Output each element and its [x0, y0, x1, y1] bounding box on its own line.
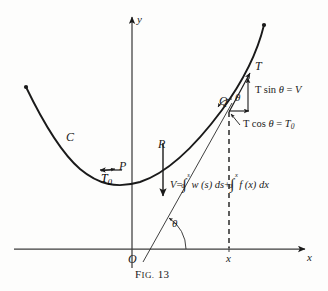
x-tick-label: x [226, 253, 231, 264]
y-axis-label: y [137, 14, 142, 25]
integral-2-body: f (x) dx [239, 179, 269, 190]
tcos-result-subscript: 0 [291, 122, 295, 131]
caption-rest: IG. [142, 270, 155, 280]
figure-13-container: y x O x C P Q R T θ θ T0 T sin θ = V T c… [0, 0, 328, 291]
point-label-p: P [119, 160, 126, 172]
point-label-r: R [158, 138, 165, 150]
tcos-equals: = [274, 118, 285, 129]
integral-1-body: w (s) ds [191, 179, 224, 190]
tsin-result: V [295, 84, 301, 95]
caption-number: 13 [158, 268, 170, 280]
tsin-function: T sin [255, 84, 279, 95]
x-axis-label: x [307, 252, 312, 263]
t0-vector-overbar-icon [100, 167, 120, 174]
catenary-curve [24, 23, 266, 185]
potential-equation: V=∫s0w (s) ds+∫x0f (x) dx [170, 180, 269, 191]
tension-t0-label: T0 [101, 171, 112, 187]
tsin-equals: = [284, 84, 295, 95]
curve-label-c: C [66, 131, 74, 143]
figure-caption: FIG. 13 [135, 268, 169, 280]
theta-label-origin: θ [172, 218, 177, 229]
vertical-force-label: T sin θ = V [255, 85, 302, 96]
theta-label-q: θ [235, 92, 240, 103]
t0-label-subscript: 0 [108, 177, 112, 187]
leader-line-tcos [231, 114, 240, 125]
horizontal-force-label: T cos θ = T0 [243, 119, 294, 131]
point-label-t: T [255, 60, 262, 72]
curve-right-endpoint [262, 23, 266, 27]
origin-label: O [128, 253, 137, 265]
tcos-function: T cos [243, 118, 268, 129]
curve-left-endpoint [24, 85, 28, 89]
point-label-q: Q [219, 95, 228, 107]
